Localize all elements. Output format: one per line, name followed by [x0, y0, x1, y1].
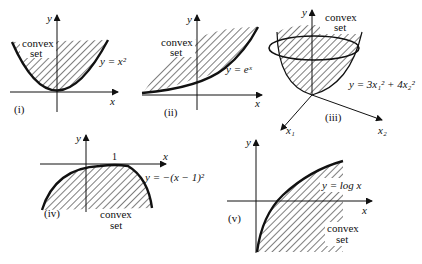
panel-label-iv: (iv): [44, 207, 60, 220]
region-label-ii-line2: set: [170, 46, 182, 58]
x-axis-label-i: x: [109, 95, 115, 107]
region-label-v-line2: set: [336, 233, 348, 245]
convex-sets-figure: y x convex set y = x² (i) y x convex set…: [0, 0, 422, 264]
x-axis-label-ii: x: [254, 97, 260, 109]
panel-v: y x y = log x convex set (v): [227, 136, 372, 253]
equation-ii: y = eˣ: [225, 63, 253, 75]
panel-ii: y x convex set y = eˣ (ii): [142, 13, 262, 119]
tick-label-1: 1: [112, 151, 117, 162]
y-axis-label-v: y: [245, 136, 251, 148]
equation-iv: y = −(x − 1)²: [144, 171, 205, 184]
region-label-iv-line2: set: [110, 219, 122, 231]
region-label-iii-line2: set: [334, 21, 346, 33]
x-axis-label-iv: x: [162, 150, 168, 162]
panel-label-v: (v): [228, 212, 241, 225]
region-label-i-line2: set: [30, 47, 42, 59]
panel-iii: y x₁ x₂ convex set y = 3x₁² + 4x₂² (iii): [269, 6, 415, 136]
y-axis-label-iii: y: [301, 6, 307, 18]
equation-iii: y = 3x₁² + 4x₂²: [348, 78, 415, 90]
x1-axis-label: x₁: [285, 124, 295, 136]
y-axis-label-ii: y: [186, 13, 192, 25]
x2-axis-label: x₂: [377, 124, 387, 136]
equation-i: y = x²: [99, 55, 127, 67]
x2-axis-iii: [312, 95, 382, 120]
y-axis-label-iv: y: [75, 132, 81, 144]
x-axis-label-v: x: [361, 204, 367, 216]
panel-label-ii: (ii): [164, 106, 178, 119]
panel-label-iii: (iii): [325, 111, 342, 124]
panel-i: y x convex set y = x² (i): [10, 12, 127, 116]
panel-label-i: (i): [14, 103, 25, 116]
panel-iv: y x 1 y = −(x − 1)² convex set (iv): [40, 132, 205, 231]
y-axis-label-i: y: [46, 12, 52, 24]
equation-v: y = log x: [321, 179, 362, 191]
